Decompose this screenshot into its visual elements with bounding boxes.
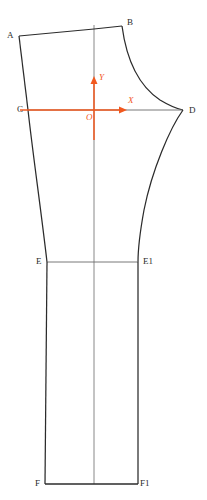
pattern-figure-canvas: A B C D E E1 F F1 X Y O (0, 0, 207, 500)
side-seam-E-F (45, 262, 47, 484)
x-axis-arrowhead (119, 107, 127, 114)
point-label-d: D (189, 106, 196, 115)
point-label-b: B (127, 18, 133, 27)
point-label-e1: E1 (143, 257, 153, 266)
point-label-a: A (7, 31, 14, 40)
point-label-f1: F1 (140, 479, 150, 488)
point-label-e: E (36, 257, 42, 266)
inseam-curve-D-E1 (138, 110, 183, 262)
side-seam-C-E (28, 110, 47, 262)
waist-line-A-B (19, 26, 122, 36)
side-seam-A-C (19, 36, 28, 110)
y-axis-arrowhead (91, 76, 98, 84)
y-axis-label: Y (99, 73, 104, 82)
x-axis-label: X (128, 96, 134, 105)
origin-label: O (86, 113, 93, 122)
point-label-c: C (17, 105, 23, 114)
point-label-f: F (35, 479, 40, 488)
